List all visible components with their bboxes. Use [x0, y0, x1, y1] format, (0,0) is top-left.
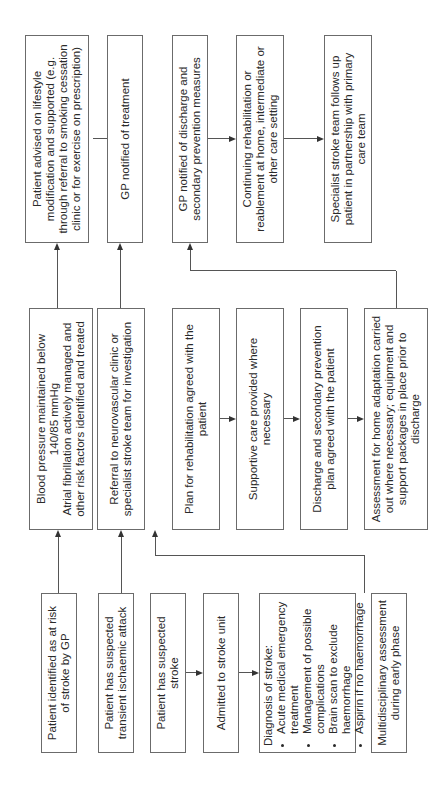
box-continuing-rehab: Continuing rehabilitation or reablement …: [236, 35, 284, 243]
arrow-down-icon: [229, 136, 236, 142]
arrow-right-icon: [117, 243, 123, 250]
connector: [93, 138, 107, 139]
box-discharge-plan: Discharge and secondary prevention plan …: [300, 308, 348, 530]
diagnosis-list: Acute medical emergency treatment Manage…: [275, 600, 366, 746]
arrow-right-icon: [54, 243, 60, 250]
connector: [190, 250, 191, 271]
connector: [155, 536, 156, 556]
box-gp-discharge: GP notified of discharge and secondary p…: [172, 35, 208, 243]
connector: [364, 556, 365, 593]
box-at-risk: Patient identified as at risk of stroke …: [41, 593, 77, 753]
connector: [155, 555, 365, 556]
diagnosis-item: Aspirin if no haemorrhage: [353, 600, 366, 734]
bp-line-2: Atrial fibrillation actively managed and…: [61, 315, 87, 523]
box-diagnosis: Diagnosis of stroke: Acute medical emerg…: [259, 593, 356, 753]
arrow-down-icon: [229, 416, 236, 422]
stroke-care-pathway-diagram: Patient identified as at risk of stroke …: [0, 0, 446, 796]
arrow-down-icon: [196, 670, 203, 676]
box-home-assessment: Assessment for home adaptation carried o…: [364, 308, 428, 530]
connector: [120, 250, 121, 308]
box-suspected-stroke: Patient has suspected stroke: [150, 593, 186, 753]
connector: [121, 536, 122, 593]
diagnosis-title: Diagnosis of stroke:: [262, 645, 275, 746]
arrow-right-icon: [187, 243, 193, 250]
arrow-right-icon: [55, 530, 61, 537]
connector: [58, 536, 59, 593]
arrow-down-icon: [357, 416, 364, 422]
diagnosis-item: Management of possible complications: [301, 600, 327, 734]
arrow-down-icon: [252, 670, 259, 676]
arrow-down-icon: [293, 416, 300, 422]
connector: [190, 270, 396, 271]
diagnosis-item: Brain scan to exclude haemorrhage: [327, 600, 353, 734]
box-admitted: Admitted to stroke unit: [203, 593, 239, 753]
box-tia: Patient has suspected transient ischaemi…: [98, 593, 134, 753]
connector: [284, 138, 320, 139]
box-gp-treatment: GP notified of treatment: [107, 35, 143, 243]
box-bp: Blood pressure maintained below 140/85 m…: [29, 308, 93, 530]
diagnosis-item: Acute medical emergency treatment: [275, 600, 301, 734]
connector: [57, 250, 58, 308]
arrow-right-icon: [152, 530, 158, 537]
box-specialist-followup: Specialist stroke team follows up patien…: [324, 35, 372, 243]
arrow-down-icon: [317, 136, 324, 142]
connector: [396, 271, 397, 308]
bp-line-1: Blood pressure maintained below 140/85 m…: [35, 315, 61, 523]
box-mdt: Multidisciplinary assessment during earl…: [371, 593, 407, 753]
box-supportive-care: Supportive care provided where necessary: [236, 308, 284, 530]
box-rehab-plan: Plan for rehabilitation agreed with the …: [172, 308, 220, 530]
arrow-right-icon: [118, 530, 124, 537]
box-lifestyle: Patient advised on lifestyle modificatio…: [25, 35, 89, 243]
box-referral: Referral to neurovascular clinic or spec…: [97, 308, 145, 530]
